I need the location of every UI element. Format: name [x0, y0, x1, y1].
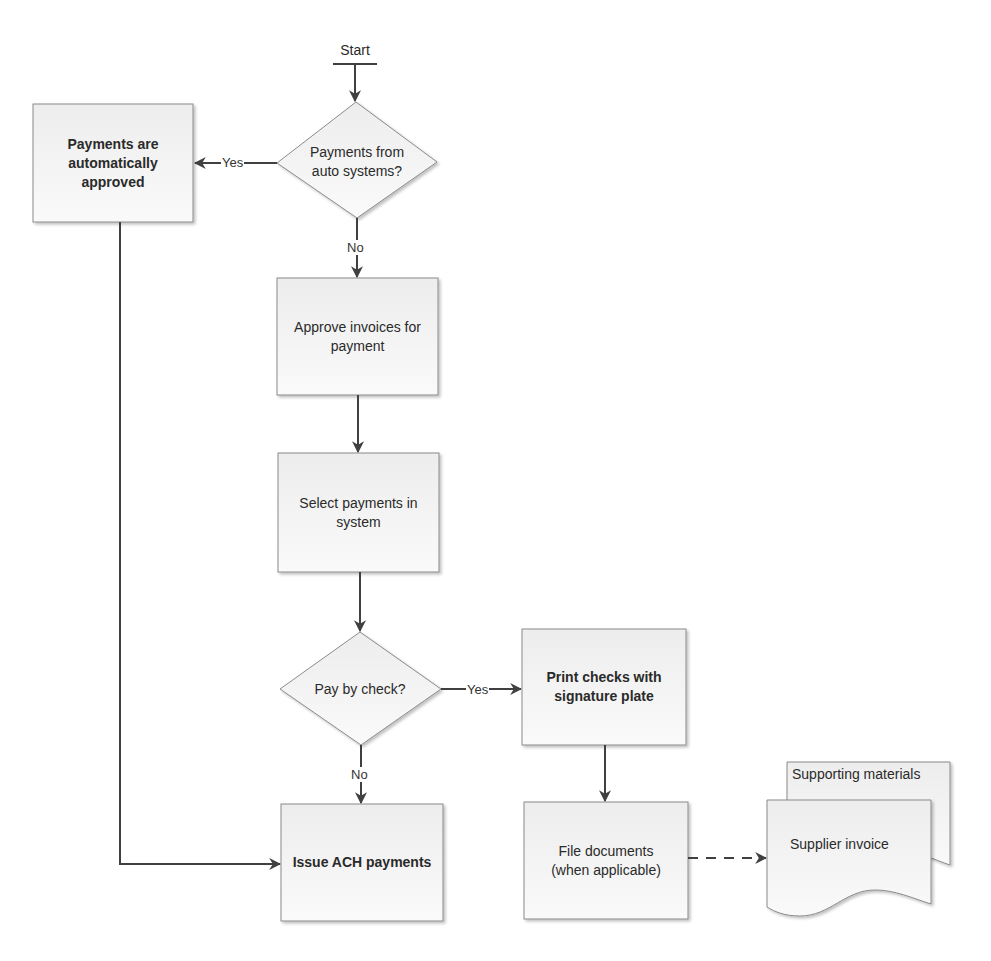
edge-auto-approved-to-ach — [120, 222, 280, 864]
process-auto-approved[interactable] — [33, 104, 193, 222]
document-supporting-materials-text: Supporting materials — [792, 766, 920, 782]
edge-label-auto-yes: Yes — [221, 155, 244, 170]
process-file-documents[interactable] — [524, 802, 688, 919]
process-approve-invoices[interactable] — [277, 278, 438, 395]
process-select-payments[interactable] — [278, 453, 439, 572]
process-print-checks[interactable] — [522, 629, 686, 745]
document-supplier-invoice-text: Supplier invoice — [790, 836, 889, 852]
document-supplier-invoice[interactable] — [767, 800, 931, 916]
flowchart-canvas — [0, 0, 991, 961]
edge-label-check-no: No — [350, 767, 369, 782]
decision-pay-by-check[interactable] — [280, 632, 441, 745]
edge-label-check-yes: Yes — [466, 682, 489, 697]
decision-auto-systems[interactable] — [277, 102, 437, 218]
edge-label-auto-no: No — [346, 240, 365, 255]
process-issue-ach[interactable] — [281, 804, 443, 921]
